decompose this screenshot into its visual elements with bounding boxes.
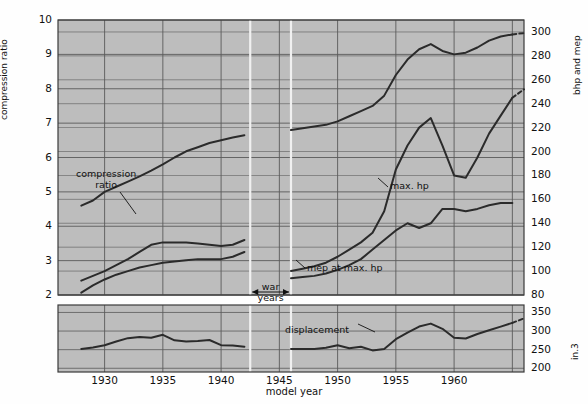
y-tick-right-180: 180 bbox=[531, 168, 561, 180]
war-years-label-line2: years bbox=[236, 292, 305, 303]
y-tick-right-220: 220 bbox=[531, 121, 561, 133]
compression-ratio-label-line2: ratio bbox=[76, 179, 136, 190]
y-tick-right-240: 240 bbox=[531, 97, 561, 109]
y-tick-right-280: 280 bbox=[531, 49, 561, 61]
y-tick-left-8: 8 bbox=[24, 82, 52, 94]
y-tick-right-300: 300 bbox=[531, 25, 561, 37]
y-tick-right-260: 260 bbox=[531, 73, 561, 85]
x-tick-1955: 1955 bbox=[378, 374, 414, 386]
y-tick-left-2: 2 bbox=[24, 288, 52, 300]
y-tick-left-6: 6 bbox=[24, 151, 52, 163]
y-tick-left-5: 5 bbox=[24, 185, 52, 197]
x-tick-1930: 1930 bbox=[87, 374, 123, 386]
war-years-label-line1: war bbox=[236, 281, 305, 292]
y-tick-right-80: 80 bbox=[531, 288, 561, 300]
x-tick-1960: 1960 bbox=[436, 374, 472, 386]
x-tick-1945: 1945 bbox=[261, 374, 297, 386]
y-tick-right-120: 120 bbox=[531, 240, 561, 252]
y-tick-disp-200: 200 bbox=[531, 361, 561, 373]
y-tick-left-3: 3 bbox=[24, 254, 52, 266]
x-tick-1935: 1935 bbox=[145, 374, 181, 386]
y-tick-right-200: 200 bbox=[531, 145, 561, 157]
compression-ratio-label: compression ratio bbox=[76, 168, 136, 190]
y-tick-left-10: 10 bbox=[24, 13, 52, 25]
y-tick-disp-300: 300 bbox=[531, 324, 561, 336]
plot-area bbox=[0, 0, 588, 404]
y-tick-right-140: 140 bbox=[531, 216, 561, 228]
y-tick-right-160: 160 bbox=[531, 192, 561, 204]
y-tick-left-7: 7 bbox=[24, 116, 52, 128]
displacement-label: displacement bbox=[285, 324, 349, 335]
y-tick-left-4: 4 bbox=[24, 219, 52, 231]
y-tick-disp-350: 350 bbox=[531, 305, 561, 317]
x-tick-1940: 1940 bbox=[203, 374, 239, 386]
compression-ratio-label-line1: compression bbox=[76, 168, 136, 179]
y-tick-disp-250: 250 bbox=[531, 343, 561, 355]
chart-figure: compression ratio bhp and mep in.3 model… bbox=[0, 0, 588, 404]
war-years-label: war years bbox=[236, 281, 305, 303]
mep-at-max-hp-label: mep at max. hp bbox=[307, 262, 383, 273]
x-tick-1950: 1950 bbox=[320, 374, 356, 386]
y-tick-right-100: 100 bbox=[531, 264, 561, 276]
max-hp-label: max. hp bbox=[390, 180, 429, 191]
y-tick-left-9: 9 bbox=[24, 47, 52, 59]
